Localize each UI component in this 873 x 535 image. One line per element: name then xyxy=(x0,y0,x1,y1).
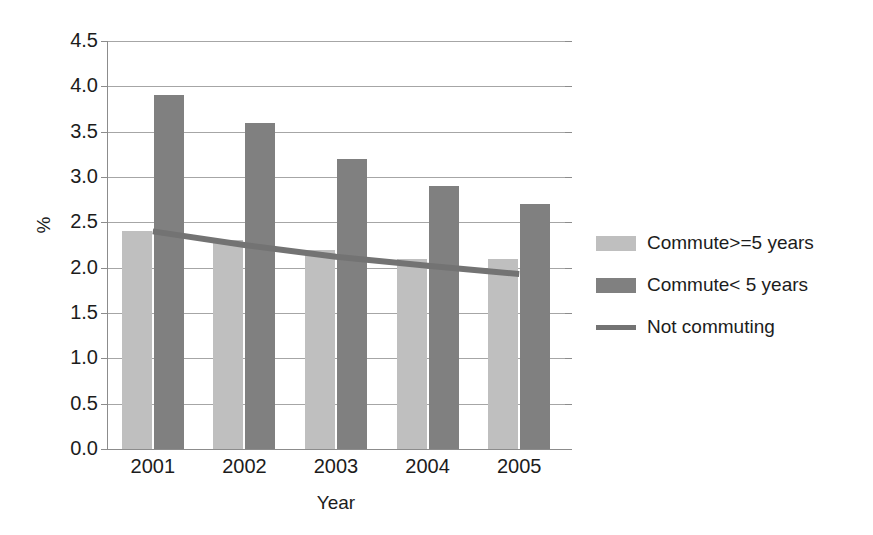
y-tick-mark-right xyxy=(565,86,572,87)
y-tick-mark xyxy=(101,449,107,450)
legend-item-label: Commute>=5 years xyxy=(647,232,814,254)
legend-item-label: Commute< 5 years xyxy=(647,274,808,296)
x-tick-label: 2002 xyxy=(199,455,289,478)
x-tick-label: 2004 xyxy=(383,455,473,478)
y-tick-mark xyxy=(101,404,107,405)
x-axis-line xyxy=(107,449,565,450)
y-tick-label: 1.0 xyxy=(50,347,98,367)
y-tick-mark xyxy=(101,86,107,87)
line-series-layer xyxy=(107,41,565,449)
y-tick-mark-right xyxy=(565,41,572,42)
y-tick-label: 4.5 xyxy=(50,30,98,50)
y-tick-mark xyxy=(101,313,107,314)
y-tick-mark xyxy=(101,177,107,178)
legend-item-label: Not commuting xyxy=(647,316,775,338)
x-tick-label: 2005 xyxy=(474,455,564,478)
y-tick-mark-right xyxy=(565,313,572,314)
y-tick-mark-right xyxy=(565,449,572,450)
y-tick-mark-right xyxy=(565,404,572,405)
legend-item[interactable]: Commute< 5 years xyxy=(596,264,866,306)
y-tick-mark-right xyxy=(565,177,572,178)
legend-swatch-icon xyxy=(596,278,636,293)
y-tick-label: 3.0 xyxy=(50,166,98,186)
y-tick-mark-right xyxy=(565,358,572,359)
plot-area xyxy=(107,41,565,449)
x-axis-title: Year xyxy=(107,492,565,514)
y-tick-label: 1.5 xyxy=(50,302,98,322)
y-tick-label: 3.5 xyxy=(50,121,98,141)
legend-item[interactable]: Not commuting xyxy=(596,306,866,348)
x-tick-label: 2001 xyxy=(108,455,198,478)
chart-legend: Commute>=5 yearsCommute< 5 yearsNot comm… xyxy=(596,222,866,348)
y-tick-mark-right xyxy=(565,132,572,133)
y-tick-label: 0.5 xyxy=(50,393,98,413)
legend-line-icon xyxy=(596,325,636,330)
y-tick-mark-right xyxy=(565,268,572,269)
x-tick-label: 2003 xyxy=(291,455,381,478)
y-tick-mark xyxy=(101,132,107,133)
legend-item[interactable]: Commute>=5 years xyxy=(596,222,866,264)
y-tick-label: 2.5 xyxy=(50,211,98,231)
y-tick-label: 4.0 xyxy=(50,75,98,95)
y-tick-label: 0.0 xyxy=(50,438,98,458)
y-tick-mark xyxy=(101,268,107,269)
legend-swatch-icon xyxy=(596,236,636,251)
y-tick-label: 2.0 xyxy=(50,257,98,277)
y-tick-mark xyxy=(101,222,107,223)
y-tick-mark xyxy=(101,41,107,42)
y-tick-mark-right xyxy=(565,222,572,223)
line-series-path xyxy=(153,231,519,274)
y-tick-mark xyxy=(101,358,107,359)
chart-container: % 0.00.51.01.52.02.53.03.54.04.5 2001200… xyxy=(0,0,873,535)
y-axis-tick-labels: 0.00.51.01.52.02.53.03.54.04.5 xyxy=(50,0,98,535)
